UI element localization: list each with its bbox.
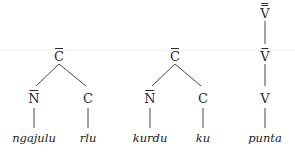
tree1-left-node: N bbox=[28, 92, 39, 106]
bar-mark bbox=[261, 5, 268, 6]
tree2-root-node: C bbox=[170, 50, 180, 64]
bar-mark bbox=[261, 3, 268, 4]
tree3-vdoublebar-node: V bbox=[260, 7, 269, 21]
tree3-vbar-node: V bbox=[260, 50, 269, 64]
bar-mark bbox=[145, 90, 154, 91]
syntax-tree-diagram: C N C ngajulu rlu C N C kurdu ku V V V p… bbox=[0, 0, 295, 153]
bar-mark bbox=[261, 48, 268, 49]
word-ngajulu: ngajulu bbox=[12, 131, 56, 145]
bar-mark bbox=[55, 48, 63, 49]
word-rlu: rlu bbox=[80, 131, 97, 145]
tree1-right-node: C bbox=[83, 92, 93, 106]
tree3-v-node: V bbox=[260, 92, 269, 106]
bar-mark bbox=[171, 48, 179, 49]
word-kurdu: kurdu bbox=[133, 131, 168, 145]
tree2-right-node: C bbox=[198, 92, 208, 106]
bar-mark bbox=[29, 90, 38, 91]
word-punta: punta bbox=[248, 131, 282, 145]
word-ku: ku bbox=[196, 131, 210, 145]
tree2-left-node: N bbox=[144, 92, 155, 106]
tree1-root-node: C bbox=[54, 50, 64, 64]
